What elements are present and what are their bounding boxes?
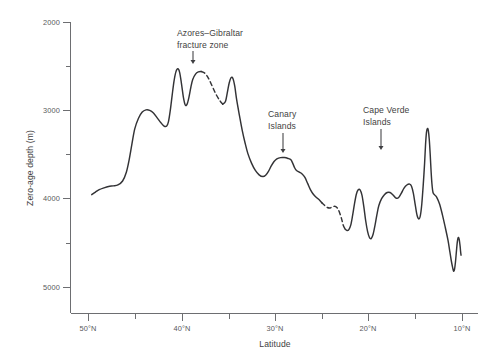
annotation-label-cape-verde-islands-line2: Islands <box>363 117 391 127</box>
x-tick-label-10n: 10°N <box>453 324 470 333</box>
y-tick-label-2000: 2000 <box>43 18 60 27</box>
figure-container: 2000 3000 4000 5000 50°N 40°N 30°N 20°N … <box>0 0 488 355</box>
annotation-label-canary-islands-line1: Canary <box>268 109 297 119</box>
annotation-label-azores-gibraltar-line2: fracture zone <box>177 40 229 50</box>
x-axis-title: Latitude <box>259 339 291 349</box>
y-axis-title: Zero-age depth (m) <box>25 130 35 206</box>
y-tick-label-4000: 4000 <box>43 194 60 203</box>
annotation-label-cape-verde-islands-line1: Cape Verde <box>363 105 410 115</box>
y-tick-label-5000: 5000 <box>43 283 60 292</box>
x-tick-label-40n: 40°N <box>173 324 190 333</box>
annotation-label-canary-islands-line2: Islands <box>268 121 296 131</box>
chart-background <box>0 0 488 355</box>
zero-age-depth-chart: 2000 3000 4000 5000 50°N 40°N 30°N 20°N … <box>0 0 488 355</box>
annotation-label-azores-gibraltar-line1: Azores–Gibraltar <box>177 28 243 38</box>
x-tick-label-20n: 20°N <box>359 324 376 333</box>
x-tick-label-30n: 30°N <box>266 324 283 333</box>
y-tick-label-3000: 3000 <box>43 106 60 115</box>
x-tick-label-50n: 50°N <box>79 324 96 333</box>
